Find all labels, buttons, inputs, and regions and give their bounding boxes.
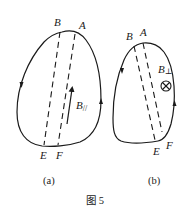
dashed-line-be bbox=[134, 46, 155, 140]
figure-5: B A E F B// (a) B A E F B⊥ bbox=[0, 0, 186, 220]
panel-a: B A E F B// (a) bbox=[17, 16, 103, 187]
label-b-E: E bbox=[152, 145, 160, 157]
label-b-A: A bbox=[139, 26, 147, 38]
label-b-B: B bbox=[126, 30, 133, 42]
label-a-E: E bbox=[39, 149, 47, 161]
label-a-B: B bbox=[54, 16, 61, 28]
figure-caption: 图 5 bbox=[86, 195, 104, 206]
panel-b: B A E F B⊥ (b) bbox=[113, 26, 177, 187]
label-a-F: F bbox=[55, 149, 63, 161]
field-into-page-icon bbox=[161, 81, 171, 91]
label-b-F: F bbox=[165, 139, 173, 151]
label-a-A: A bbox=[78, 19, 86, 31]
dashed-line-be bbox=[44, 32, 60, 145]
field-arrow-parallel-icon bbox=[67, 89, 72, 124]
loop-outline-b bbox=[113, 43, 174, 143]
field-label-parallel-sub: // bbox=[83, 104, 88, 113]
current-arrow-up-icon bbox=[99, 98, 103, 104]
panel-b-sublabel: (b) bbox=[148, 175, 161, 187]
current-arrow-down-icon bbox=[120, 68, 124, 74]
field-label-perp-sub: ⊥ bbox=[165, 67, 173, 76]
field-label-parallel: B// bbox=[76, 99, 88, 113]
dashed-line-af bbox=[143, 43, 162, 132]
loop-outline-a bbox=[17, 31, 101, 147]
current-arrow-up-icon bbox=[173, 100, 177, 106]
panel-a-sublabel: (a) bbox=[43, 175, 55, 187]
